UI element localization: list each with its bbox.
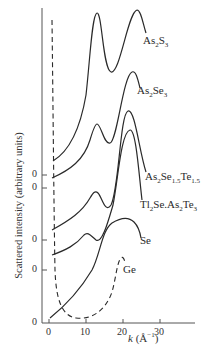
y-zero-label-4: 0: [32, 263, 37, 274]
label-tl2se-as2te3: Tl2Se.As2Te3: [140, 198, 197, 213]
y-axis-label: Scattered intensity (arbitrary units): [13, 126, 24, 286]
label-se: Se: [140, 234, 151, 246]
y-zero-ticks: [42, 175, 47, 270]
x-axis-label-close: ): [155, 332, 159, 344]
y-zero-label-5: 0: [32, 316, 37, 327]
curve-as2se3: [52, 72, 140, 178]
x-axis-label-k: k: [128, 332, 133, 344]
x-axis-label: k (Å−1): [128, 331, 158, 344]
label-ge: Ge: [123, 263, 136, 275]
x-tick-label-10: 10: [80, 326, 90, 337]
curve-as2s3: [53, 10, 146, 161]
label-as2se3: As2Se3: [137, 84, 167, 99]
label-as2s3: As2S3: [143, 34, 168, 49]
x-ticks: [49, 319, 160, 323]
x-tick-label-20: 20: [117, 326, 127, 337]
y-zero-label-3: 0: [32, 233, 37, 244]
y-zero-label-2: 0: [32, 181, 37, 192]
x-axis-label-sup: −1: [147, 331, 154, 339]
label-as2se15te15: As2Se1.5Te1.5: [145, 170, 200, 185]
x-tick-label-0: 0: [46, 326, 51, 337]
x-axis-label-unit: (Å: [136, 332, 148, 344]
y-zero-label-1: 0: [32, 168, 37, 179]
